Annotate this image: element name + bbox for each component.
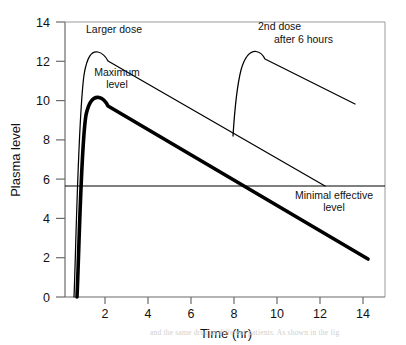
x-tick-label-10: 10	[270, 307, 284, 321]
plot-canvas: 14 12 10 8 6 4 2 0 2 4 6 8 10 12 14 Time…	[0, 0, 406, 345]
y-tick-label-8: 8	[43, 133, 50, 147]
partial-caption-text: and the same drug in different patients.…	[150, 328, 339, 337]
y-tick-label-4: 4	[43, 212, 50, 226]
annotation-larger-dose: Larger dose	[86, 23, 142, 35]
annotation-second-dose-line1: 2nd dose	[258, 20, 301, 32]
x-tick-label-2: 2	[102, 307, 109, 321]
y-tick-label-6: 6	[43, 173, 50, 187]
y-tick-marks	[56, 22, 65, 297]
caption-strip: and the same drug in different patients.…	[0, 324, 406, 345]
x-tick-label-12: 12	[313, 307, 327, 321]
annotation-minimal-effective-line1: Minimal effective	[295, 189, 373, 201]
annotation-second-dose-line2: after 6 hours	[274, 33, 333, 45]
x-tick-marks	[105, 297, 363, 304]
annotation-maximum-level-line1: Maximum	[94, 66, 140, 78]
y-tick-label-10: 10	[36, 94, 50, 108]
y-tick-label-2: 2	[43, 251, 50, 265]
x-tick-label-6: 6	[188, 307, 195, 321]
pharmacokinetics-chart: 14 12 10 8 6 4 2 0 2 4 6 8 10 12 14 Time…	[0, 0, 406, 345]
y-tick-label-14: 14	[36, 16, 50, 30]
y-tick-label-0: 0	[43, 291, 50, 305]
x-tick-label-4: 4	[145, 307, 152, 321]
y-axis-title: Plasma level	[8, 123, 23, 197]
annotation-minimal-effective-line2: level	[323, 201, 345, 213]
second-dose-curve	[233, 51, 355, 136]
x-tick-label-14: 14	[356, 307, 370, 321]
annotation-maximum-level-line2: level	[106, 78, 128, 90]
y-tick-label-12: 12	[36, 55, 50, 69]
x-tick-label-8: 8	[231, 307, 238, 321]
